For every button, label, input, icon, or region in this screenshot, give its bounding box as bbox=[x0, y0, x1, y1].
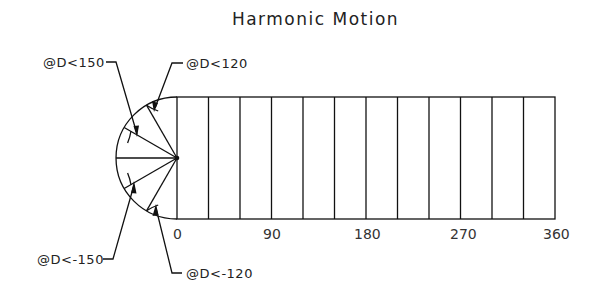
radial-lines bbox=[116, 105, 177, 211]
tick-360: 360 bbox=[543, 226, 570, 242]
callout-120: @D<120 bbox=[186, 56, 248, 71]
tick-90: 90 bbox=[263, 226, 281, 242]
center-point bbox=[175, 156, 180, 161]
callout-minus-120: @D<-120 bbox=[186, 266, 253, 281]
division-lines bbox=[209, 97, 524, 219]
tick-0: 0 bbox=[173, 226, 182, 242]
tick-180: 180 bbox=[354, 226, 381, 242]
tick-270: 270 bbox=[450, 226, 477, 242]
harmonic-motion-diagram: @D<150 @D<120 @D<-150 @D<-120 0 90 180 2… bbox=[0, 0, 601, 303]
callout-minus-150: @D<-150 bbox=[37, 252, 104, 267]
callout-150: @D<150 bbox=[43, 55, 105, 70]
